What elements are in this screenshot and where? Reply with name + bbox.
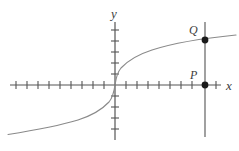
y-axis-label: y <box>109 6 117 21</box>
coordinate-plane-figure: Q P x y <box>0 0 239 151</box>
point-q-marker <box>202 37 209 44</box>
point-p-marker <box>202 82 209 89</box>
figure-canvas: Q P x y <box>0 0 239 151</box>
x-axis-label: x <box>225 78 232 93</box>
point-p-label: P <box>189 68 198 82</box>
point-q-label: Q <box>189 23 198 37</box>
